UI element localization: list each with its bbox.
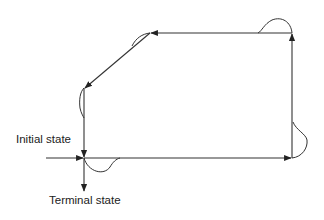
curve-top-right — [258, 19, 292, 33]
edge-diagonal — [85, 33, 150, 88]
initial-state-label: Initial state — [16, 133, 71, 145]
state-trajectory-diagram — [0, 0, 324, 220]
curve-bottom-left — [84, 158, 120, 172]
curve-left-mid — [80, 88, 84, 118]
terminal-state-label: Terminal state — [49, 194, 121, 206]
curve-right — [292, 122, 307, 158]
